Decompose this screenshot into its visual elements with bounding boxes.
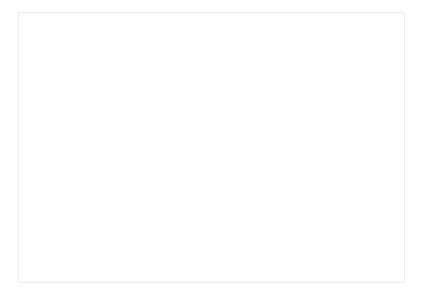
chart-border [18,12,405,283]
chart-container: $0$200,000,000$400,000,000$600,000,000$8… [0,0,428,293]
